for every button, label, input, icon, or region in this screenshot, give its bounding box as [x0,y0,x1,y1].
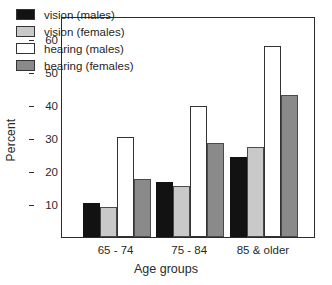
bar [281,95,298,237]
legend-swatch-icon [16,60,35,71]
bar-chart-figure: Percent 102030405060 vision (males)visio… [0,0,332,285]
chart-legend: vision (males)vision (females)hearing (m… [14,4,168,78]
legend-item: hearing (males) [16,41,166,56]
bar [190,106,207,237]
legend-swatch-icon [16,9,35,20]
bar [207,143,224,237]
bar [173,186,190,237]
y-axis-tick-label: 40 [32,100,58,112]
y-axis-tick-label: 20 [32,166,58,178]
legend-item-label: vision (males) [44,9,115,21]
bar [117,137,134,237]
legend-item-label: vision (females) [44,26,125,38]
legend-item-label: hearing (females) [44,60,133,72]
x-axis-title: Age groups [0,262,332,276]
y-axis-tick-mark [29,139,34,140]
legend-item: vision (females) [16,24,166,39]
bar [156,182,173,237]
legend-item: hearing (females) [16,58,166,73]
legend-item-label: hearing (males) [44,43,124,55]
y-axis-title: Percent [4,100,18,180]
x-axis-tick-label: 75 - 84 [171,244,207,256]
bar [230,157,247,237]
y-axis-tick-mark [29,172,34,173]
legend-swatch-icon [16,43,35,54]
bar [83,203,100,237]
x-axis-tick-label: 65 - 74 [98,244,134,256]
y-axis-tick-mark [29,106,34,107]
y-axis-tick-mark [29,73,34,74]
bar [247,147,264,237]
y-axis-tick-label: 30 [32,133,58,145]
legend-item: vision (males) [16,7,166,22]
bar [264,46,281,237]
legend-swatch-icon [16,26,35,37]
x-axis-tick-label: 85 & older [237,244,289,256]
y-axis-tick-label: 10 [32,199,58,211]
y-axis-tick-mark [29,40,34,41]
bar [134,179,151,237]
bar-group [230,18,298,237]
bar [100,207,117,237]
y-axis-tick-mark [29,205,34,206]
